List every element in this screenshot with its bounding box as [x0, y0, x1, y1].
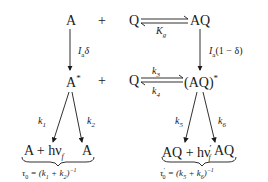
k2-arrow	[72, 92, 82, 142]
plus-sign-row2: +	[98, 74, 106, 88]
lifetime-tau0-prime: τ′0 = (k5 + k6)−1	[160, 167, 214, 180]
k1-arrow	[53, 92, 69, 142]
nonradiative-product-left: A	[82, 144, 92, 158]
rate-k2-label: k2	[87, 116, 95, 129]
fluorescence-product-left: A + hνf	[24, 144, 64, 161]
species-a-excited: A*	[66, 74, 81, 90]
rate-k3-label: k3	[152, 66, 160, 79]
equilibrium-constant-label: Kg	[156, 26, 166, 39]
k6-arrow	[203, 92, 215, 142]
rate-k6-label: k6	[218, 116, 226, 129]
species-q-row1: Q	[129, 14, 139, 28]
species-q-row2: Q	[129, 74, 139, 88]
rate-k1-label: k1	[38, 116, 46, 129]
species-a: A	[66, 14, 76, 28]
excitation-label-left: Iaδ	[78, 46, 89, 59]
rate-k5-label: k5	[175, 116, 183, 129]
rate-k4-label: k4	[152, 86, 160, 99]
k5-arrow	[185, 92, 197, 142]
nonradiative-product-right: AQ	[214, 144, 234, 158]
fluorescence-product-right: AQ + hν′f	[162, 144, 211, 162]
excitation-label-right: Ia(1 − δ)	[209, 46, 242, 59]
species-aq-excited: (AQ)*	[184, 74, 218, 90]
lifetime-tau0: τ0 = (k1 + k2)−1	[22, 167, 76, 180]
species-aq: AQ	[190, 14, 210, 28]
plus-sign-row1: +	[98, 14, 106, 28]
